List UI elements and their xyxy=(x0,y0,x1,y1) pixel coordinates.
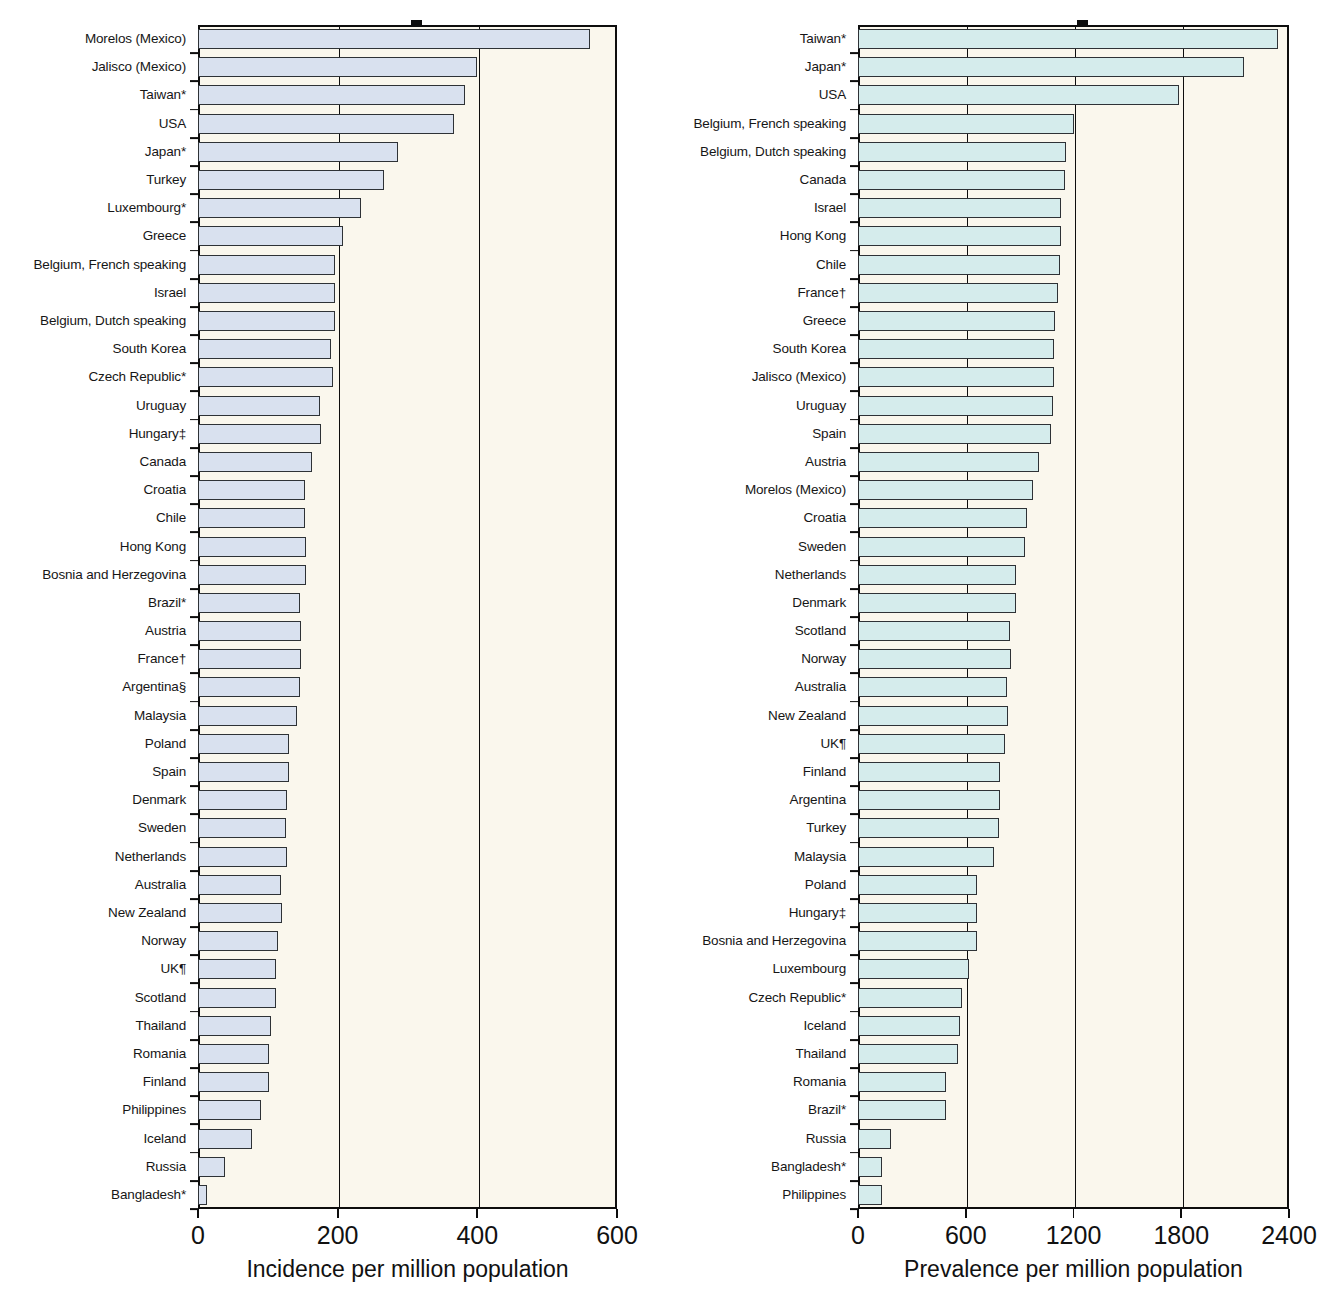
category-label: Scotland xyxy=(135,991,186,1005)
y-tick xyxy=(850,1039,858,1041)
bar xyxy=(858,29,1278,49)
category-label: Australia xyxy=(135,878,186,892)
category-label: Scotland xyxy=(795,624,846,638)
x-tick-label: 0 xyxy=(851,1223,865,1248)
category-label: Bangladesh* xyxy=(111,1188,186,1202)
y-tick xyxy=(850,1095,858,1097)
y-tick xyxy=(190,785,198,787)
category-label: France† xyxy=(798,286,846,300)
category-label: New Zealand xyxy=(108,906,186,920)
category-label: Iceland xyxy=(804,1019,846,1033)
y-tick xyxy=(190,1039,198,1041)
gridline-400 xyxy=(479,27,480,1207)
category-label: Luxembourg* xyxy=(107,201,186,215)
x-tick-label: 2400 xyxy=(1261,1223,1317,1248)
category-label: Japan* xyxy=(145,145,186,159)
y-tick xyxy=(850,278,858,280)
category-label: Chile xyxy=(156,512,186,526)
bar xyxy=(198,142,398,162)
category-label: Romania xyxy=(133,1047,186,1061)
y-tick xyxy=(850,813,858,815)
x-tick xyxy=(197,1209,199,1218)
incidence-chart-panel: Morelos (Mexico)Jalisco (Mexico)Taiwan*U… xyxy=(0,0,662,1289)
category-label: Spain xyxy=(812,427,846,441)
y-tick xyxy=(190,109,198,111)
category-label: Czech Republic* xyxy=(88,371,186,385)
y-tick xyxy=(850,334,858,336)
y-tick xyxy=(190,560,198,562)
y-tick xyxy=(190,1124,198,1126)
category-label: Japan* xyxy=(805,61,846,75)
figure-root: Morelos (Mexico)Jalisco (Mexico)Taiwan*U… xyxy=(0,0,1323,1289)
category-label: Brazil* xyxy=(148,596,186,610)
bar xyxy=(858,452,1039,472)
y-tick xyxy=(850,447,858,449)
y-tick xyxy=(850,165,858,167)
category-label: Austria xyxy=(145,624,186,638)
x-tick xyxy=(1288,1209,1290,1218)
bar xyxy=(858,762,1000,782)
bar xyxy=(858,1185,882,1205)
category-label: Greece xyxy=(143,230,186,244)
category-label: Bangladesh* xyxy=(771,1160,846,1174)
category-label: Malaysia xyxy=(794,850,846,864)
y-tick xyxy=(190,503,198,505)
bar xyxy=(858,903,977,923)
y-tick xyxy=(190,419,198,421)
y-tick xyxy=(850,1152,858,1154)
y-tick xyxy=(850,954,858,956)
y-tick xyxy=(190,80,198,82)
bar xyxy=(858,706,1008,726)
category-label: Philippines xyxy=(782,1188,846,1202)
y-tick xyxy=(190,729,198,731)
bar xyxy=(858,198,1061,218)
bar xyxy=(198,508,305,528)
category-label: USA xyxy=(819,89,846,103)
bar xyxy=(858,593,1016,613)
category-label: Morelos (Mexico) xyxy=(745,483,846,497)
category-label: Bosnia and Herzegovina xyxy=(42,568,186,582)
y-tick xyxy=(850,701,858,703)
category-label: Russia xyxy=(146,1160,186,1174)
y-tick xyxy=(850,757,858,759)
y-tick xyxy=(190,306,198,308)
y-tick xyxy=(850,926,858,928)
y-tick xyxy=(190,193,198,195)
y-tick xyxy=(850,306,858,308)
prevalence-axis-title: Prevalence per million population xyxy=(904,1258,1243,1281)
bar xyxy=(858,114,1074,134)
y-tick xyxy=(850,137,858,139)
bar xyxy=(858,959,969,979)
bar xyxy=(858,621,1010,641)
category-label: Sweden xyxy=(138,822,186,836)
y-tick xyxy=(190,1011,198,1013)
category-label: Norway xyxy=(801,653,846,667)
bar xyxy=(198,114,454,134)
x-tick-label: 1800 xyxy=(1153,1223,1209,1248)
category-label: Israel xyxy=(814,201,846,215)
category-label: Luxembourg xyxy=(772,963,846,977)
prevalence-chart-panel: Taiwan*Japan*USABelgium, French speaking… xyxy=(661,0,1323,1289)
bar xyxy=(858,1016,960,1036)
x-tick xyxy=(337,1209,339,1218)
category-label: Malaysia xyxy=(134,709,186,723)
y-tick xyxy=(850,419,858,421)
y-tick xyxy=(850,588,858,590)
y-tick xyxy=(190,362,198,364)
bar xyxy=(198,593,300,613)
bar xyxy=(858,988,962,1008)
bar xyxy=(198,452,312,472)
bar xyxy=(858,537,1025,557)
category-label: Greece xyxy=(803,314,846,328)
y-tick xyxy=(850,785,858,787)
bar xyxy=(198,959,276,979)
bar xyxy=(198,1185,207,1205)
bar xyxy=(198,565,306,585)
y-tick xyxy=(850,193,858,195)
bar xyxy=(198,255,335,275)
category-label: Poland xyxy=(805,878,846,892)
category-label: Norway xyxy=(141,934,186,948)
bar xyxy=(198,226,343,246)
bar xyxy=(858,1129,891,1149)
bar xyxy=(198,1100,261,1120)
